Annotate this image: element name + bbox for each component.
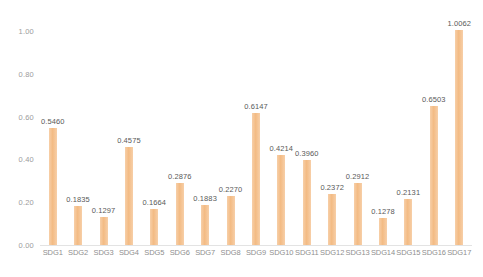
- bar-slot-SDG17: 1.0062: [447, 31, 472, 245]
- bar-slot-SDG12: 0.2372: [319, 31, 344, 245]
- bar-slot-SDG1: 0.5460: [40, 31, 65, 245]
- bar-slot-SDG9: 0.6147: [243, 31, 268, 245]
- x-axis-label-SDG5: SDG5: [142, 248, 167, 257]
- bar-slot-SDG15: 0.2131: [396, 31, 421, 245]
- bar-slot-SDG4: 0.4575: [116, 31, 141, 245]
- bar-SDG16[interactable]: [430, 106, 438, 245]
- x-axis-label-SDG17: SDG17: [447, 248, 472, 257]
- x-axis-label-SDG9: SDG9: [243, 248, 268, 257]
- x-axis-category-labels: SDG1SDG2SDG3SDG4SDG5SDG6SDG7SDG8SDG9SDG1…: [40, 248, 472, 257]
- bar-value-label: 0.4214: [270, 144, 294, 153]
- bar-value-label: 0.2372: [320, 183, 344, 192]
- x-axis-label-SDG7: SDG7: [192, 248, 217, 257]
- bar-value-label: 0.6147: [244, 102, 268, 111]
- bar-value-label: 0.5460: [41, 117, 65, 126]
- bar-SDG12[interactable]: [328, 194, 336, 245]
- bar-slot-SDG2: 0.1835: [65, 31, 90, 245]
- bar-value-label: 0.2876: [168, 172, 192, 181]
- bar-slot-SDG14: 0.1278: [370, 31, 395, 245]
- x-axis-label-SDG14: SDG14: [370, 248, 395, 257]
- x-axis-label-SDG12: SDG12: [319, 248, 344, 257]
- x-axis-label-SDG1: SDG1: [40, 248, 65, 257]
- x-axis-label-SDG4: SDG4: [116, 248, 141, 257]
- bar-SDG6[interactable]: [176, 183, 184, 245]
- x-axis-label-SDG13: SDG13: [345, 248, 370, 257]
- x-axis-label-SDG16: SDG16: [421, 248, 446, 257]
- bar-slot-SDG5: 0.1664: [142, 31, 167, 245]
- bar-SDG2[interactable]: [74, 206, 82, 245]
- y-axis-tick-0.60: 0.60: [19, 112, 34, 121]
- bar-value-label: 0.2912: [346, 172, 370, 181]
- x-axis-line: [40, 245, 472, 246]
- bar-value-label: 1.0062: [447, 19, 471, 28]
- bar-SDG9[interactable]: [252, 113, 260, 245]
- bar-slot-SDG13: 0.2912: [345, 31, 370, 245]
- bar-series: 0.54600.18350.12970.45750.16640.28760.18…: [40, 31, 472, 245]
- bar-value-label: 0.1664: [143, 198, 167, 207]
- bar-slot-SDG6: 0.2876: [167, 31, 192, 245]
- x-axis-label-SDG8: SDG8: [218, 248, 243, 257]
- bar-value-label: 0.1835: [66, 195, 90, 204]
- y-axis-tick-0.00: 0.00: [19, 241, 34, 250]
- x-axis-label-SDG11: SDG11: [294, 248, 319, 257]
- bar-chart: 0.000.200.400.600.801.00 0.54600.18350.1…: [0, 0, 483, 277]
- x-axis-label-SDG15: SDG15: [396, 248, 421, 257]
- bar-SDG17[interactable]: [455, 30, 463, 245]
- bar-SDG4[interactable]: [125, 147, 133, 245]
- x-axis-label-SDG2: SDG2: [65, 248, 90, 257]
- bar-value-label: 0.2270: [219, 185, 243, 194]
- y-axis-tick-0.40: 0.40: [19, 155, 34, 164]
- bar-SDG7[interactable]: [201, 205, 209, 245]
- bar-SDG13[interactable]: [354, 183, 362, 245]
- bar-value-label: 0.4575: [117, 136, 141, 145]
- bar-SDG8[interactable]: [227, 196, 235, 245]
- bar-slot-SDG7: 0.1883: [192, 31, 217, 245]
- bar-value-label: 0.1278: [371, 207, 395, 216]
- bar-value-label: 0.1297: [92, 206, 116, 215]
- x-axis-label-SDG3: SDG3: [91, 248, 116, 257]
- bar-value-label: 0.2131: [397, 188, 421, 197]
- bar-SDG1[interactable]: [49, 128, 57, 245]
- bar-value-label: 0.3960: [295, 149, 319, 158]
- x-axis-label-SDG6: SDG6: [167, 248, 192, 257]
- bar-SDG5[interactable]: [150, 209, 158, 245]
- bar-SDG14[interactable]: [379, 218, 387, 245]
- bar-value-label: 0.6503: [422, 95, 446, 104]
- bar-SDG15[interactable]: [404, 199, 412, 245]
- bar-SDG10[interactable]: [277, 155, 285, 245]
- plot-area: 0.000.200.400.600.801.00 0.54600.18350.1…: [40, 31, 472, 245]
- bar-slot-SDG10: 0.4214: [269, 31, 294, 245]
- bar-slot-SDG11: 0.3960: [294, 31, 319, 245]
- bar-value-label: 0.1883: [193, 194, 217, 203]
- y-axis-tick-0.20: 0.20: [19, 198, 34, 207]
- x-axis-label-SDG10: SDG10: [269, 248, 294, 257]
- bar-SDG11[interactable]: [303, 160, 311, 245]
- bar-slot-SDG8: 0.2270: [218, 31, 243, 245]
- bar-slot-SDG3: 0.1297: [91, 31, 116, 245]
- y-axis-tick-1.00: 1.00: [19, 27, 34, 36]
- y-axis-tick-0.80: 0.80: [19, 69, 34, 78]
- bar-slot-SDG16: 0.6503: [421, 31, 446, 245]
- bar-SDG3[interactable]: [100, 217, 108, 245]
